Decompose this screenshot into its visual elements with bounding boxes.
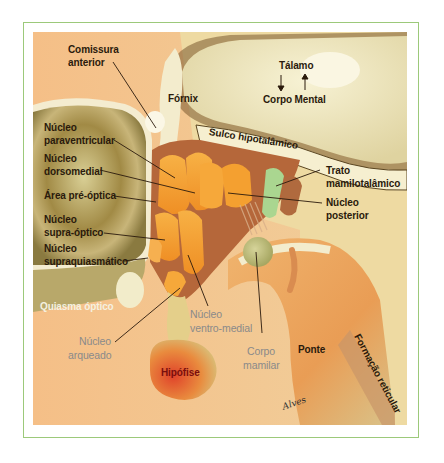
label-trato-2: mamilotalâmico — [326, 178, 400, 190]
label-nucleo-paraventricular-1: Núcleo — [44, 122, 77, 134]
label-nucleo-dorsomedial-1: Núcleo — [44, 153, 77, 165]
label-comissura: Comissura — [68, 44, 119, 56]
label-nucleo-ventro-medial-1: Núcleo — [190, 308, 222, 321]
label-corpo-mental: Corpo Mental — [263, 94, 326, 106]
label-talamo: Tálamo — [279, 60, 313, 72]
label-nucleo-arqueado-2: arqueado — [68, 349, 112, 362]
label-nucleo-posterior-2: posterior — [326, 210, 368, 222]
label-quiasma-optico: Quiasma óptico — [40, 301, 114, 313]
label-nucleo-supraquiasmatico-2: supraquiasmático — [44, 256, 128, 268]
label-fornix: Fórnix — [168, 93, 198, 105]
label-trato-1: Trato — [326, 165, 350, 177]
anterior-commissure — [145, 111, 165, 133]
label-corpo-mamilar-2: mamilar — [243, 359, 280, 372]
label-nucleo-paraventricular-2: paraventricular — [44, 135, 115, 147]
label-nucleo-arqueado-1: Núcleo — [75, 335, 111, 348]
label-nucleo-posterior-1: Núcleo — [326, 197, 359, 209]
label-hipofise: Hipófise — [161, 367, 200, 379]
label-nucleo-ventro-medial-2: ventro-medial — [190, 322, 252, 335]
label-nucleo-supraquiasmatico-1: Núcleo — [44, 243, 77, 255]
label-nucleo-dorsomedial-2: dorsomedial — [44, 166, 102, 178]
label-comissura-anterior: anterior — [68, 57, 104, 69]
mammillary-body — [243, 237, 273, 267]
label-corpo-mamilar-1: Corpo — [247, 345, 275, 358]
label-nucleo-supra-optico-1: Núcleo — [44, 214, 77, 226]
label-area-pre-optica: Área pré-óptica — [44, 190, 116, 202]
label-nucleo-supra-optico-2: supra-óptico — [44, 227, 103, 239]
label-ponte: Ponte — [298, 344, 325, 356]
